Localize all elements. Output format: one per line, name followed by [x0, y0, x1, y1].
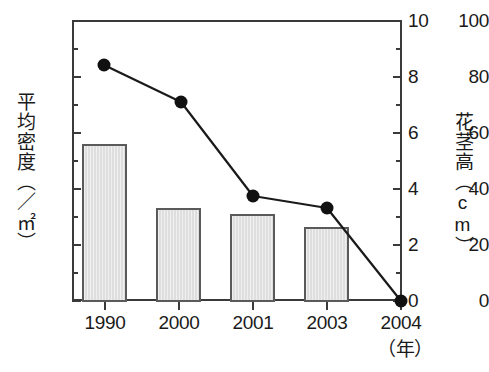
- x-tick-2001: [252, 301, 254, 310]
- bar-2003: [304, 227, 349, 302]
- chart-figure: 0 20 40 60 80 100 0 2 4 6 8 10 1990 2000…: [0, 0, 489, 372]
- right-tick-minor-9: [396, 48, 402, 50]
- left-tick-major-40: [72, 188, 81, 190]
- x-tick-2000: [178, 301, 180, 310]
- x-tick-label-2001: 2001: [213, 313, 293, 333]
- right-tick-minor-3: [396, 216, 402, 218]
- x-tick-label-2003: 2003: [287, 313, 367, 333]
- x-tick-label-1990: 1990: [65, 313, 145, 333]
- right-tick-label-6: 6: [408, 123, 448, 142]
- bar-2000: [156, 208, 201, 302]
- left-tick-minor-70: [72, 104, 78, 106]
- x-tick-label-2004: 2004: [361, 313, 441, 333]
- x-tick-1990: [104, 301, 106, 310]
- right-tick-label-8: 8: [408, 67, 448, 86]
- x-tick-2003: [326, 301, 328, 310]
- bar-1990: [82, 144, 127, 302]
- right-tick-major-4: [393, 188, 402, 190]
- left-tick-minor-30: [72, 216, 78, 218]
- right-tick-major-2: [393, 244, 402, 246]
- left-tick-minor-90: [72, 48, 78, 50]
- right-tick-label-2: 2: [408, 235, 448, 254]
- x-tick-label-2000: 2000: [139, 313, 219, 333]
- right-tick-label-4: 4: [408, 179, 448, 198]
- right-tick-major-10: [393, 20, 402, 22]
- right-tick-minor-7: [396, 104, 402, 106]
- right-tick-label-0: 0: [408, 291, 448, 310]
- left-tick-minor-50: [72, 160, 78, 162]
- right-tick-minor-5: [396, 160, 402, 162]
- right-tick-label-10: 10: [408, 11, 448, 30]
- x-axis-unit-label: （年）: [365, 340, 445, 360]
- right-axis-title: 花茎高（cm）: [452, 112, 473, 256]
- left-axis-title: 平均密度（／㎡）: [14, 92, 35, 252]
- left-tick-major-0: [72, 300, 81, 302]
- left-tick-major-60: [72, 132, 81, 134]
- left-tick-minor-10: [72, 272, 78, 274]
- right-tick-minor-1: [396, 272, 402, 274]
- left-tick-major-20: [72, 244, 81, 246]
- x-tick-2004: [400, 301, 402, 310]
- left-tick-major-100: [72, 20, 81, 22]
- bar-2001: [230, 214, 275, 302]
- right-tick-major-6: [393, 132, 402, 134]
- right-tick-major-8: [393, 76, 402, 78]
- left-tick-major-80: [72, 76, 81, 78]
